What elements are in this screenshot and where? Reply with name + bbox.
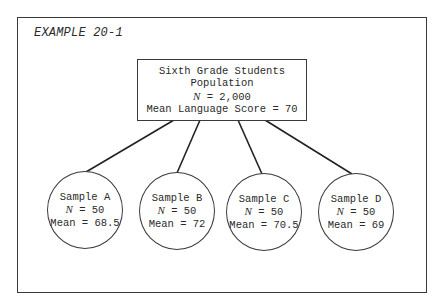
connector-line-a [86,120,174,172]
population-n-value: = 2,000 [200,91,250,103]
connector-lines [0,0,444,307]
sample-a-circle: Sample A N = 50 Mean = 68.5 [47,171,123,249]
sample-name: Sample B [152,192,202,205]
sample-n: N = 50 [245,205,284,219]
n-symbol: N [337,205,344,217]
n-symbol: N [66,203,73,215]
sample-mean: Mean = 72 [149,218,206,231]
population-sublabel: Population [190,77,253,90]
sample-b-circle: Sample B N = 50 Mean = 72 [139,172,215,250]
sample-c-circle: Sample C N = 50 Mean = 70.5 [226,173,302,251]
sample-n: N = 50 [337,205,376,219]
connector-line-d [265,120,352,174]
sample-name: Sample A [60,191,110,204]
sample-n-value: = 50 [344,206,376,218]
sample-mean: Mean = 68.5 [50,217,119,230]
sample-mean: Mean = 69 [328,219,385,232]
connector-line-b [177,120,200,173]
sample-n: N = 50 [66,203,105,217]
population-mean: Mean Language Score = 70 [146,103,297,116]
sample-n-value: = 50 [252,206,284,218]
sample-mean: Mean = 70.5 [229,219,298,232]
population-label: Sixth Grade Students [159,65,285,78]
connector-line-c [238,120,262,174]
population-n: N = 2,000 [193,90,251,104]
sample-n: N = 50 [158,204,197,218]
sample-name: Sample D [331,193,381,206]
sample-name: Sample C [239,193,289,206]
n-symbol: N [158,204,165,216]
sample-d-circle: Sample D N = 50 Mean = 69 [318,173,394,251]
population-box: Sixth Grade Students Population N = 2,00… [137,59,307,121]
n-symbol: N [245,205,252,217]
sample-n-value: = 50 [73,204,105,216]
sample-n-value: = 50 [165,205,197,217]
